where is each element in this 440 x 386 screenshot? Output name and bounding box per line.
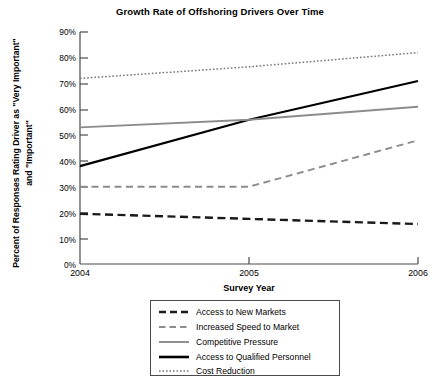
legend-swatch-dashed-gray [159, 321, 189, 333]
legend-swatch-dotted-gray [159, 365, 189, 377]
legend-label: Increased Speed to Market [196, 322, 299, 332]
legend-swatch-solid-thick-black [159, 351, 189, 363]
chart-legend: Access to New Markets Increased Speed to… [150, 300, 340, 376]
series-line-access-to-new-markets [80, 214, 418, 224]
chart-figure: Growth Rate of Offshoring Drivers Over T… [0, 0, 440, 386]
legend-label: Competitive Pressure [196, 337, 278, 347]
legend-item-access-to-qualified-personnel: Access to Qualified Personnel [159, 350, 311, 364]
legend-item-increased-speed-to-market: Increased Speed to Market [159, 320, 299, 334]
plot-area [0, 0, 440, 300]
legend-item-cost-reduction: Cost Reduction [159, 364, 255, 378]
series-line-increased-speed-to-market [80, 140, 418, 186]
legend-label: Access to Qualified Personnel [196, 352, 311, 362]
legend-item-access-to-new-markets: Access to New Markets [159, 305, 286, 319]
legend-item-competitive-pressure: Competitive Pressure [159, 335, 278, 349]
series-line-competitive-pressure [80, 107, 418, 128]
y-axis-ticks [80, 32, 88, 239]
legend-swatch-dashed-bold-black [159, 306, 189, 318]
legend-swatch-solid-thin-gray [159, 336, 189, 348]
legend-label: Cost Reduction [196, 366, 255, 376]
legend-label: Access to New Markets [196, 307, 286, 317]
series-line-cost-reduction [80, 53, 418, 79]
